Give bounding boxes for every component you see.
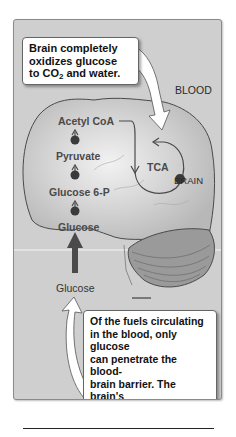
callout-top-line: to CO2 and water. [29,67,132,80]
glucose-transport-arrow [72,245,78,273]
callout-bottom-line: Of the fuels circulating [90,315,210,328]
callout-top: Brain completely oxidizes glucose to CO2… [22,37,139,85]
callout-bottom-line: can penetrate the blood- [90,353,210,378]
cerebrum-shape [23,98,215,242]
callout-bottom: Of the fuels circulating in the blood, o… [83,310,217,400]
diagram-panel: Brain completely oxidizes glucose to CO2… [13,19,222,400]
callout-bottom-line: brain barrier. The brain's [90,378,210,401]
metabolite-acetyl-coa: Acetyl CoA [58,115,114,127]
metabolite-glucose-6p: Glucose 6-P [49,186,110,198]
blood-label: BLOOD [175,84,212,96]
metabolite-pyruvate: Pyruvate [56,150,100,162]
brain-label: BRAIN [174,175,203,186]
callout-top-line: oxidizes glucose [29,55,132,68]
tca-label: TCA [147,161,169,173]
bottom-rule [23,428,214,429]
metabolite-glucose-brain: Glucose [58,221,99,233]
callout-bottom-line: in the blood, only glucose [90,328,210,353]
blood-glucose-label: Glucose [56,282,95,294]
callout-top-line: Brain completely [29,42,132,55]
